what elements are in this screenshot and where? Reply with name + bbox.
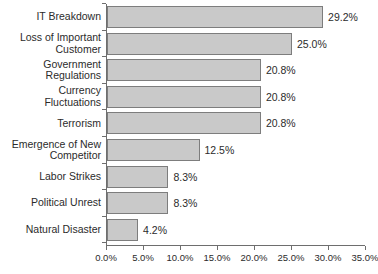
bar-value-label: 20.8% — [266, 64, 296, 76]
y-axis-tick — [102, 3, 106, 4]
bar-value-label: 29.2% — [328, 11, 358, 23]
category-label: Natural Disaster — [0, 224, 104, 236]
x-axis-tick — [143, 246, 144, 250]
category-label: Terrorism — [0, 118, 104, 130]
x-axis-tick — [254, 246, 255, 250]
bar — [107, 139, 200, 161]
y-axis-tick — [102, 56, 106, 57]
bar-value-label: 20.8% — [266, 91, 296, 103]
x-axis-tick-label: 25.0% — [278, 252, 305, 263]
bar-value-label: 8.3% — [173, 197, 197, 209]
x-axis-tick — [291, 246, 292, 250]
category-label: Loss of Important Customer — [0, 32, 104, 55]
bar-value-label: 25.0% — [297, 38, 327, 50]
x-axis-tick — [180, 246, 181, 250]
bar — [107, 112, 261, 134]
y-axis-tick — [102, 83, 106, 84]
x-axis-tick — [217, 246, 218, 250]
x-axis-tick-label: 20.0% — [241, 252, 268, 263]
category-label: Labor Strikes — [0, 171, 104, 183]
bar-chart: IT BreakdownLoss of Important CustomerGo… — [0, 0, 378, 274]
category-label: Political Unrest — [0, 197, 104, 209]
category-label: Currency Fluctuations — [0, 85, 104, 108]
y-axis-tick — [102, 163, 106, 164]
bar — [107, 166, 168, 188]
bar — [107, 192, 168, 214]
bar-value-label: 20.8% — [266, 117, 296, 129]
bar — [107, 86, 261, 108]
category-label: Emergence of New Competitor — [0, 139, 104, 162]
x-axis-tick — [365, 246, 366, 250]
y-axis-tick — [102, 109, 106, 110]
x-axis-tick-label: 0.0% — [95, 252, 117, 263]
y-axis-tick — [102, 30, 106, 31]
bar — [107, 33, 292, 55]
y-axis-tick — [102, 216, 106, 217]
x-axis-tick-label: 30.0% — [315, 252, 342, 263]
bar — [107, 6, 323, 28]
bar — [107, 59, 261, 81]
x-axis-line — [106, 245, 365, 246]
y-axis-tick — [102, 136, 106, 137]
x-axis-tick — [106, 246, 107, 250]
x-axis-tick-label: 35.0% — [352, 252, 378, 263]
category-label: Government Regulations — [0, 59, 104, 82]
bar-value-label: 12.5% — [205, 144, 235, 156]
plot-area: 29.2%25.0%20.8%20.8%20.8%12.5%8.3%8.3%4.… — [106, 0, 366, 246]
bar — [107, 219, 138, 241]
x-axis-tick — [328, 246, 329, 250]
x-axis-tick-label: 5.0% — [132, 252, 154, 263]
category-label: IT Breakdown — [0, 11, 104, 23]
y-axis-tick — [102, 242, 106, 243]
x-axis-tick-label: 15.0% — [204, 252, 231, 263]
x-axis-tick-label: 10.0% — [167, 252, 194, 263]
y-axis-tick — [102, 189, 106, 190]
bar-value-label: 8.3% — [173, 171, 197, 183]
bar-value-label: 4.2% — [143, 224, 167, 236]
